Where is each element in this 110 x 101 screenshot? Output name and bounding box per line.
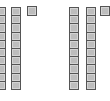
rod-cell bbox=[0, 41, 5, 48]
rod-cell bbox=[0, 57, 5, 64]
rod-cell bbox=[0, 65, 5, 72]
rod-cell bbox=[12, 57, 20, 64]
rod-cell bbox=[0, 24, 5, 31]
rod-cell bbox=[0, 82, 5, 89]
unit-cube-face bbox=[28, 7, 36, 15]
rod-cell bbox=[12, 82, 20, 89]
rod-cell bbox=[87, 8, 95, 15]
rod-cell bbox=[0, 16, 5, 23]
unit-cube bbox=[100, 6, 110, 16]
rod-cell bbox=[12, 16, 20, 23]
rod-cell bbox=[70, 57, 78, 64]
rod-cell bbox=[70, 16, 78, 23]
rod-cell bbox=[87, 74, 95, 81]
rod-cell bbox=[87, 82, 95, 89]
rod-cell bbox=[0, 74, 5, 81]
rod-cell bbox=[0, 33, 5, 40]
rod-cell bbox=[70, 24, 78, 31]
rod-cell bbox=[12, 41, 20, 48]
unit-cube-face bbox=[101, 7, 109, 15]
rod-cell bbox=[87, 49, 95, 56]
rod-cell bbox=[87, 65, 95, 72]
rod-cell bbox=[87, 24, 95, 31]
rod-cell bbox=[87, 57, 95, 64]
rod-cell bbox=[70, 74, 78, 81]
rod-cell bbox=[70, 65, 78, 72]
rod-cell bbox=[70, 33, 78, 40]
rod-cell bbox=[12, 65, 20, 72]
rod-cell bbox=[12, 49, 20, 56]
tens-rod bbox=[69, 7, 79, 90]
tens-rod bbox=[86, 7, 96, 90]
rod-cell bbox=[87, 33, 95, 40]
rod-cell bbox=[70, 8, 78, 15]
rod-cell bbox=[0, 8, 5, 15]
tens-rod bbox=[0, 7, 6, 90]
rod-cell bbox=[0, 49, 5, 56]
rod-cell bbox=[12, 33, 20, 40]
unit-cube bbox=[27, 6, 37, 16]
rod-cell bbox=[87, 16, 95, 23]
rod-cell bbox=[12, 24, 20, 31]
rod-cell bbox=[87, 41, 95, 48]
rod-cell bbox=[70, 41, 78, 48]
rod-cell bbox=[70, 82, 78, 89]
tens-rod bbox=[11, 7, 21, 90]
rod-cell bbox=[12, 74, 20, 81]
rod-cell bbox=[12, 8, 20, 15]
rod-cell bbox=[70, 49, 78, 56]
